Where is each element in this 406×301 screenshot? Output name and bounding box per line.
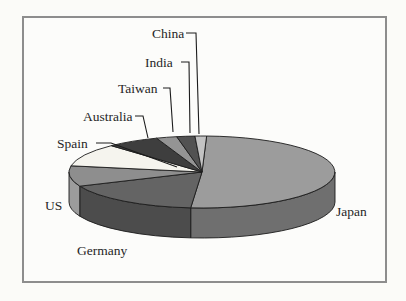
page-background: JapanGermanyUSSpainAustraliaTaiwanIndiaC… <box>0 0 406 301</box>
leader-line-china <box>186 33 199 134</box>
slice-label-germany: Germany <box>77 243 127 258</box>
leader-line-india <box>181 62 190 133</box>
slice-label-us: US <box>45 198 62 213</box>
leader-line-australia <box>135 116 148 138</box>
slice-label-taiwan: Taiwan <box>118 81 158 96</box>
slice-label-japan: Japan <box>336 204 367 219</box>
slice-label-china: China <box>152 26 184 41</box>
pie-chart: JapanGermanyUSSpainAustraliaTaiwanIndiaC… <box>0 0 406 301</box>
leader-line-taiwan <box>163 88 173 132</box>
slice-label-spain: Spain <box>57 136 88 151</box>
slice-label-india: India <box>145 55 173 70</box>
slice-label-australia: Australia <box>83 109 133 124</box>
